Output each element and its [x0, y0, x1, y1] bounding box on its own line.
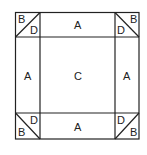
label-top-left-b: B [18, 13, 25, 25]
label-bottom-a: A [74, 121, 82, 133]
quilt-block-diagram: B D A B D A C A D B A D B [0, 0, 147, 155]
label-bottom-right-d: D [117, 114, 125, 126]
label-top-left-d: D [30, 24, 38, 36]
label-top-a: A [74, 19, 82, 31]
label-left-a: A [24, 70, 32, 82]
label-bottom-left-d: D [30, 114, 38, 126]
label-top-right-b: B [130, 13, 137, 25]
label-center-c: C [74, 70, 82, 82]
label-top-right-d: D [117, 24, 125, 36]
label-bottom-left-b: B [18, 126, 25, 138]
label-right-a: A [123, 70, 131, 82]
label-bottom-right-b: B [130, 126, 137, 138]
